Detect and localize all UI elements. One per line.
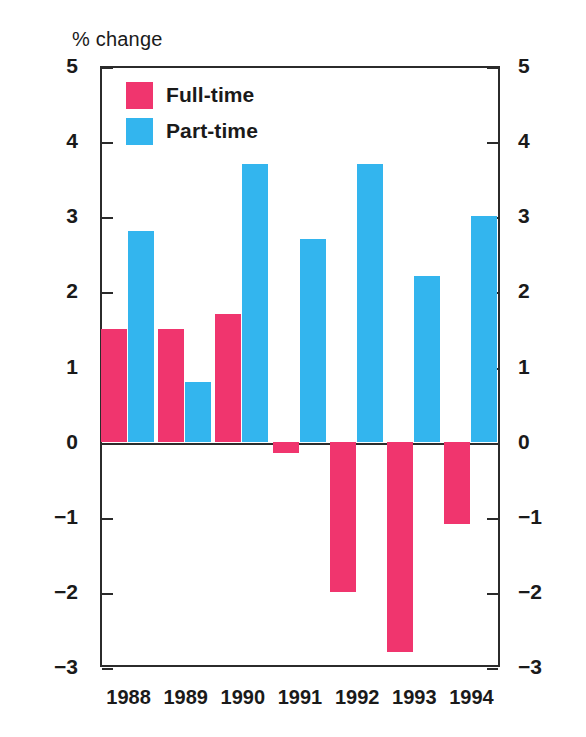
bar-part-time-1989 [185, 382, 211, 442]
y-tick-right-0 [487, 443, 498, 445]
x-tick-label-1993: 1993 [384, 686, 444, 709]
y-tick-label-left-0: 0 [66, 431, 78, 452]
y-tick-label-right-3: 3 [518, 205, 530, 226]
y-tick-label-left--1: −1 [54, 506, 78, 527]
y-tick-label-left-2: 2 [66, 280, 78, 301]
y-tick-label-left--2: −2 [54, 581, 78, 602]
y-tick-label-right-5: 5 [518, 55, 530, 76]
y-tick-label-left-4: 4 [66, 130, 78, 151]
y-tick-left--2 [102, 593, 113, 595]
legend-item-part-time: Part-time [126, 116, 258, 146]
x-tick-label-1991: 1991 [270, 686, 330, 709]
bar-part-time-1991 [300, 239, 326, 442]
chart-legend: Full-timePart-time [126, 80, 258, 152]
y-tick-label-left-1: 1 [66, 356, 78, 377]
bar-part-time-1994 [471, 216, 497, 441]
x-tick-label-1992: 1992 [327, 686, 387, 709]
y-tick-label-left-3: 3 [66, 205, 78, 226]
legend-swatch-full-time [126, 82, 153, 109]
bar-part-time-1990 [242, 164, 268, 442]
bar-chart-figure: % change 554433221100−1−1−2−2−3−3 198819… [0, 0, 586, 737]
y-tick-left-2 [102, 292, 113, 294]
y-axis-unit-title: % change [72, 28, 163, 51]
zero-baseline [102, 443, 498, 445]
y-tick-right--2 [487, 593, 498, 595]
bar-part-time-1993 [414, 276, 440, 441]
y-tick-label-right-0: 0 [518, 431, 530, 452]
y-tick-right-5 [487, 67, 498, 69]
y-tick-label-right-1: 1 [518, 356, 530, 377]
y-tick-label-right-2: 2 [518, 280, 530, 301]
legend-swatch-part-time [126, 118, 153, 145]
bar-full-time-1988 [101, 329, 127, 442]
y-tick-label-left--3: −3 [54, 656, 78, 677]
legend-item-full-time: Full-time [126, 80, 258, 110]
x-tick-label-1988: 1988 [99, 686, 159, 709]
bar-full-time-1991 [273, 442, 299, 453]
y-tick-left-3 [102, 217, 113, 219]
bar-full-time-1989 [158, 329, 184, 442]
bar-full-time-1990 [215, 314, 241, 442]
bar-part-time-1992 [357, 164, 383, 442]
y-tick-right-4 [487, 142, 498, 144]
y-tick-label-right--1: −1 [518, 506, 542, 527]
y-tick-label-left-5: 5 [66, 55, 78, 76]
legend-label-part-time: Part-time [166, 119, 258, 143]
x-tick-label-1989: 1989 [156, 686, 216, 709]
bar-full-time-1993 [387, 442, 413, 652]
y-tick-right--3 [487, 668, 498, 670]
legend-label-full-time: Full-time [166, 83, 254, 107]
x-tick-label-1994: 1994 [441, 686, 501, 709]
bar-full-time-1994 [444, 442, 470, 525]
x-tick-label-1990: 1990 [213, 686, 273, 709]
bar-part-time-1988 [128, 231, 154, 441]
y-tick-label-right-4: 4 [518, 130, 530, 151]
y-tick-left-0 [102, 443, 113, 445]
y-tick-left--3 [102, 668, 113, 670]
y-tick-label-right--2: −2 [518, 581, 542, 602]
bar-full-time-1992 [330, 442, 356, 592]
y-tick-left-5 [102, 67, 113, 69]
y-tick-label-right--3: −3 [518, 656, 542, 677]
y-tick-right--1 [487, 518, 498, 520]
y-tick-left-4 [102, 142, 113, 144]
y-tick-left--1 [102, 518, 113, 520]
